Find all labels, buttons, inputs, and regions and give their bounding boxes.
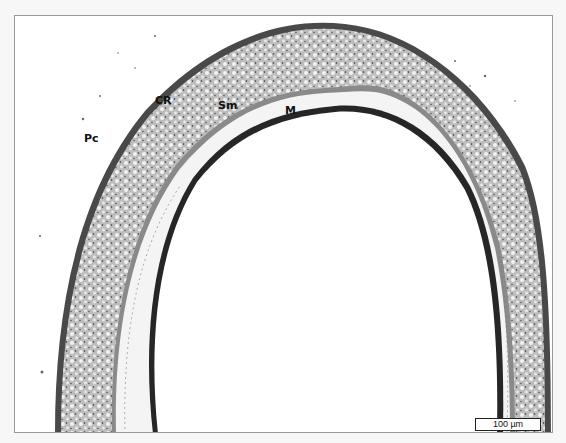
tissue-section <box>15 16 553 433</box>
label-perichondrium: Pc <box>84 132 99 145</box>
scale-bar: 100 µm <box>475 418 541 431</box>
label-submucosa: Sm <box>218 99 237 112</box>
label-mucosa: M <box>285 104 296 117</box>
micrograph-frame: Pc CR Sm M 100 µm <box>14 15 553 433</box>
label-cartilage-ring: CR <box>155 94 172 107</box>
